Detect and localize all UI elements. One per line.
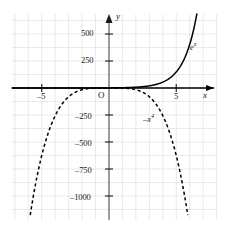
x-tick-label-neg5: –5 — [37, 91, 45, 101]
axis-lines — [12, 14, 214, 220]
y-tick-label-neg750: –750 — [75, 165, 92, 175]
y-tick-label-250: 250 — [81, 55, 93, 65]
y-tick-label-neg250: –250 — [75, 111, 92, 121]
curve-label-exponential-exponent: x — [194, 41, 197, 47]
origin-label: O — [98, 90, 105, 100]
x-tick-label-pos5: 5 — [174, 91, 178, 101]
x-axis-label: x — [203, 90, 207, 100]
y-tick-label-500: 500 — [81, 28, 93, 38]
curve-label-exponential: ex — [190, 41, 196, 52]
y-axis-label: y — [116, 11, 120, 21]
curve-exponential — [12, 14, 197, 88]
plot-canvas — [0, 0, 230, 237]
exponential-vs-quartic-graph: y x O 500 250 –250 –500 –750 –1000 –5 5 … — [0, 0, 230, 237]
curve-label-quartic: –x4 — [143, 113, 154, 124]
curve-label-quartic-exponent: 4 — [151, 113, 154, 119]
curve-label-quartic-base: –x — [143, 114, 151, 124]
y-tick-label-neg1000: –1000 — [70, 192, 91, 202]
grid-lines — [12, 14, 218, 220]
y-tick-label-neg500: –500 — [75, 138, 92, 148]
